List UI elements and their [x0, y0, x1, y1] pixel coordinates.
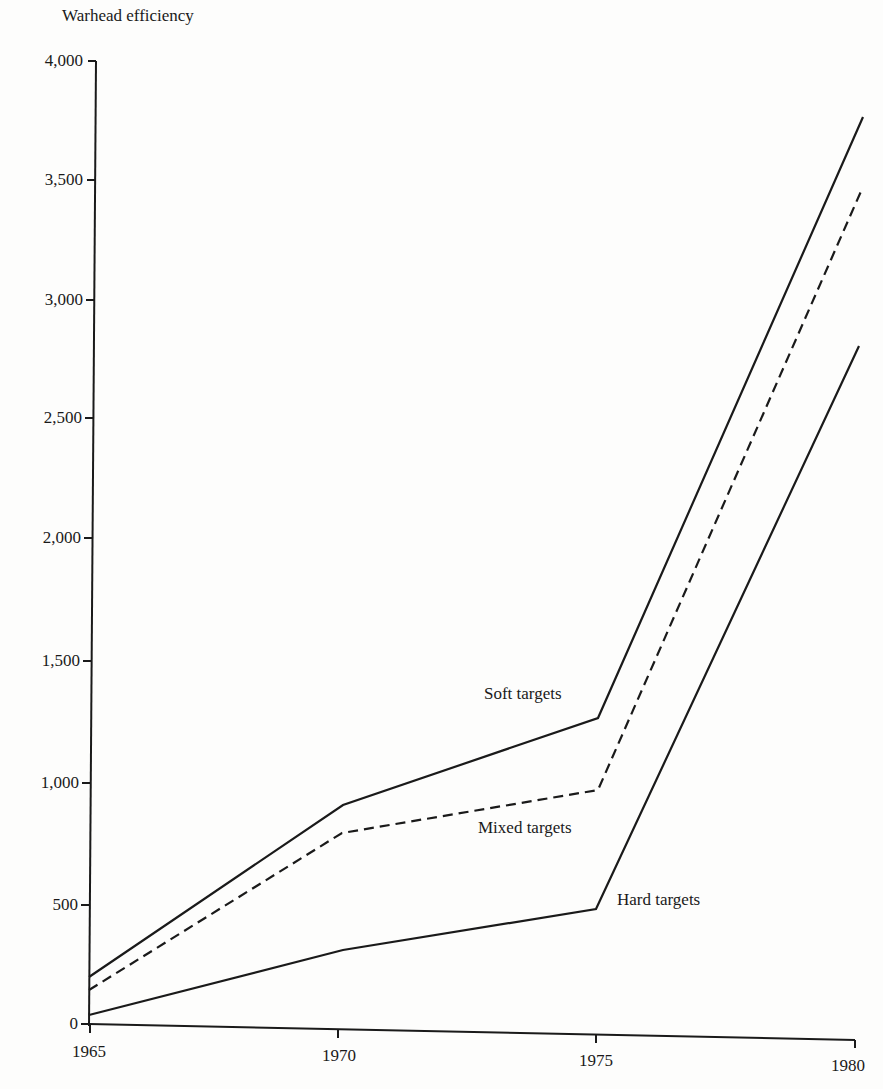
series-label-mixed-targets: Mixed targets: [478, 818, 572, 838]
y-axis-title: Warhead efficiency: [62, 6, 194, 26]
series-soft-targets-line: [89, 117, 863, 977]
x-tick-label-1975: 1975: [566, 1052, 626, 1069]
x-tick-label-1970: 1970: [309, 1047, 369, 1064]
series-label-soft-targets: Soft targets: [484, 684, 562, 704]
x-tick-label-1980: 1980: [818, 1057, 878, 1074]
series-hard-targets-line: [89, 346, 859, 1015]
x-tick-label-1965: 1965: [59, 1043, 119, 1060]
y-tick-label-3000: 3,000: [0, 291, 83, 308]
x-axis-ticks: [90, 1024, 855, 1048]
chart-plot: [0, 0, 883, 1089]
y-tick-label-1500: 1,500: [0, 652, 80, 669]
y-tick-label-4000: 4,000: [0, 52, 83, 69]
y-tick-label-500: 500: [0, 896, 78, 913]
y-axis-ticks: [81, 61, 96, 1024]
y-tick-label-0: 0: [0, 1015, 78, 1032]
y-tick-label-2500: 2,500: [0, 409, 82, 426]
y-tick-label-2000: 2,000: [0, 529, 81, 546]
y-axis: [89, 61, 96, 1026]
y-tick-label-3500: 3,500: [0, 171, 83, 188]
y-tick-label-1000: 1,000: [0, 774, 79, 791]
x-axis: [89, 1024, 855, 1040]
series-label-hard-targets: Hard targets: [617, 890, 700, 910]
